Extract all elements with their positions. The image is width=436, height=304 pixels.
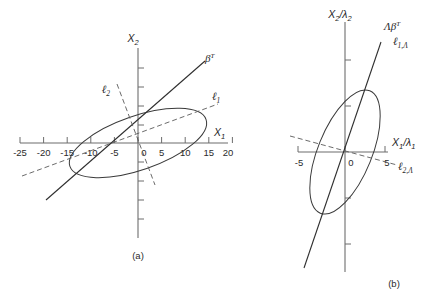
panel-a-y-axis-label: X2 [126,32,139,47]
panel-a-xtick-5: 0 [141,147,146,158]
panel-a-xtick-8: 15 [204,147,215,158]
panel-a-xtick-9: 20 [223,147,234,158]
figure-svg: -25 -20 -15 -10 -5 0 5 10 15 20 X2 [0,0,436,304]
panel-a: -25 -20 -15 -10 -5 0 5 10 15 20 X2 [13,32,233,261]
panel-a-xtick-2: -15 [60,147,74,158]
panel-b: -5 0 5 X2/λ2 X1/λ1 ΛβT ℓ1,Λ [290,8,415,289]
panel-a-xtick-4: -5 [110,147,118,158]
figure-container: -25 -20 -15 -10 -5 0 5 10 15 20 X2 [0,0,436,304]
panel-a-beta-label: βT [204,52,215,64]
panel-b-lambdabeta-label: ΛβT [383,20,401,32]
panel-a-xtick-1: -20 [37,147,51,158]
panel-b-xtick-1: 0 [348,157,353,168]
panel-a-x-axis-label: X1 [213,126,225,141]
panel-b-xtick-0: -5 [295,157,303,168]
panel-a-xtick-0: -25 [13,147,27,158]
panel-b-caption: (b) [388,278,400,289]
panel-a-ell2-label: ℓ2 [102,83,111,98]
panel-b-y-axis-label: X2/λ2 [327,8,352,23]
panel-b-x-ticklabels: -5 0 5 [295,157,390,168]
panel-a-ell1-line [22,104,218,176]
panel-b-ell1L-label: ℓ1,Λ [393,35,408,50]
panel-a-caption: (a) [132,250,144,261]
panel-b-ell2L-label: ℓ2,Λ [398,160,413,175]
panel-a-xtick-6: 5 [159,147,164,158]
panel-a-x-ticks [20,137,232,143]
panel-a-ell1-label: ℓ1 [212,90,220,105]
panel-a-beta-line [46,61,205,200]
panel-a-x-ticklabels: -25 -20 -15 -10 -5 0 5 10 15 20 [13,147,233,158]
panel-b-x-ticks [298,146,385,152]
panel-b-x-axis-label: X1/λ1 [391,136,415,151]
